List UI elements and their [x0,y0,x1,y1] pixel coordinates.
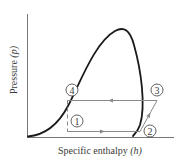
state-marker-4: 4 [66,84,78,96]
arrow-left-icon [108,99,113,103]
y-axis-label: Pressure (p) [8,45,20,94]
state-marker-2: 2 [144,125,156,137]
svg-text:3: 3 [155,85,160,96]
pressure-enthalpy-diagram: 4 3 1 2 Specific enthalpy (h) Pressure (… [0,0,190,167]
state-marker-3: 3 [151,84,163,96]
svg-text:4: 4 [70,85,75,96]
arrow-right-icon [100,130,105,134]
state-marker-1: 1 [71,115,83,127]
svg-text:2: 2 [148,126,153,137]
saturation-dome [28,29,143,137]
arrow-up-right-icon [146,113,150,118]
x-axis-label: Specific enthalpy (h) [58,145,143,157]
svg-text:1: 1 [75,116,80,127]
